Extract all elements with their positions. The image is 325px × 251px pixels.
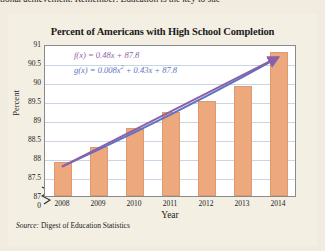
y-tick-label: 90	[11, 78, 41, 87]
source-text: Digest of Education Statistics	[41, 221, 130, 230]
y-tick-label: 90.5	[11, 59, 41, 68]
x-tick-label: 2010	[117, 199, 151, 208]
x-axis-label: Year	[44, 210, 296, 220]
page-top-sentence: tional achievement. Remember: Education …	[0, 0, 325, 6]
x-tick-label: 2014	[261, 199, 295, 208]
figure-panel: Percent of Americans with High School Co…	[8, 14, 317, 246]
y-tick-label: 88.5	[11, 135, 41, 144]
y-axis-zero-tick: 0	[8, 201, 41, 210]
x-tick-label: 2012	[189, 199, 223, 208]
y-axis-ticks: 8787.58888.58989.59090.591	[8, 45, 41, 197]
y-tick-label: 89.5	[11, 97, 41, 106]
x-tick-label: 2008	[45, 199, 79, 208]
x-tick-label: 2011	[153, 199, 187, 208]
x-tick-label: 2013	[225, 199, 259, 208]
y-tick-label: 89	[11, 116, 41, 125]
y-tick-label: 87	[11, 192, 41, 201]
source-caption: Source: Digest of Education Statistics	[16, 221, 130, 230]
y-tick-label: 91	[11, 40, 41, 49]
x-tick-label: 2009	[81, 199, 115, 208]
source-prefix: Source:	[16, 221, 39, 230]
chart-title: Percent of Americans with High School Co…	[8, 26, 317, 37]
y-tick-label: 88	[11, 154, 41, 163]
y-tick-label: 87.5	[11, 173, 41, 182]
g-equation-label: g(x) = 0.008x2 + 0.43x + 87.8	[74, 64, 177, 75]
f-equation-label: f(x) = 0.48x + 87.8	[74, 50, 139, 60]
